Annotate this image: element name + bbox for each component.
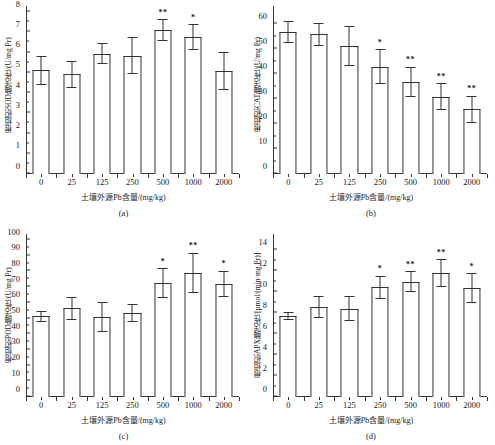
error-bar [162,268,163,298]
bar [63,74,80,174]
y-tick-label: 60 [259,12,268,21]
y-minor-tick-mark [26,81,29,82]
x-tick-label: 500 [148,401,178,413]
error-bar [288,21,289,43]
error-bar-cap-top [67,61,77,62]
error-bar [318,23,319,45]
y-tick-label: 4 [263,342,267,351]
error-bar-cap-top [188,253,198,254]
x-tick-label: 250 [117,178,147,190]
error-bar-cap-top [127,304,137,305]
significance-marker: ** [467,85,476,93]
y-tick-label: 6 [263,321,267,330]
error-bar [132,304,133,321]
error-bar [318,296,319,318]
y-tick-label: 80 [12,259,21,268]
y-tick-label: 40 [12,321,21,330]
error-bar [102,43,103,64]
bar [371,287,388,397]
y-tick-label: 0 [16,161,20,170]
x-tick-label: 2000 [456,401,487,413]
y-tick-label: 0 [16,384,20,393]
x-tick-label: 125 [334,401,365,413]
error-bar [41,56,42,84]
y-tick-label: 2 [263,363,267,372]
y-minor-tick-mark [273,385,276,386]
bar-group: * [456,240,487,397]
y-tick-mark [26,286,30,287]
x-tick-label: 1000 [178,178,208,190]
bar-series: *** [26,12,239,174]
bar-group: ** [426,240,457,397]
y-tick-label: 8 [263,301,267,310]
y-tick-mark [26,132,30,133]
x-tick-label: 1000 [426,401,457,413]
y-tick-mark [273,23,277,24]
bar-series: **** [26,240,239,397]
bar [341,309,358,397]
bar [33,70,50,174]
error-bar [471,273,472,303]
y-tick-label: 100 [7,227,20,236]
x-tick-label: 250 [365,401,396,413]
error-bar [410,271,411,292]
y-tick-mark [26,11,30,12]
significance-marker: * [470,263,475,271]
y-minor-tick-mark [26,372,29,373]
error-bar-cap-top [219,271,229,272]
bar-group: * [365,240,396,397]
y-minor-tick-mark [26,61,29,62]
y-tick-mark [273,249,277,250]
x-tick-marks [273,393,487,397]
error-bar-cap-top [36,311,46,312]
bar [185,37,202,174]
panel-label: (c) [0,432,247,441]
bar-group [304,240,335,397]
error-bar-cap-top [283,312,293,313]
error-bar-cap-top [314,296,324,297]
error-bar-cap-bottom [283,42,293,43]
bar [94,54,111,174]
y-tick-label: 4 [16,80,20,89]
error-bar [441,259,442,286]
bar [33,316,50,397]
error-bar-cap-top [467,273,477,274]
bar [310,34,327,174]
plot-area: 0102030405060708090100 **** [26,240,239,397]
bar-group [117,240,147,397]
y-tick-mark [273,148,277,149]
error-bar-cap-bottom [127,321,137,322]
significance-marker: * [378,265,383,273]
y-minor-tick-mark [273,160,276,161]
y-minor-tick-mark [273,301,276,302]
error-bar-cap-bottom [36,321,46,322]
x-tick-label: 25 [304,178,335,190]
error-bar-cap-bottom [67,87,77,88]
x-tick-labels: 02512525050010002000 [273,178,487,190]
y-tick-label: 30 [12,337,21,346]
error-bar-cap-bottom [375,83,385,84]
error-bar-cap-bottom [127,73,137,74]
error-bar [288,312,289,320]
figure-four-panel-bar-charts: 根组织SOD酶活性/(U/mg Pr) 012345678 *** 025125… [0,0,495,445]
bar [280,316,297,397]
error-bar-cap-bottom [467,302,477,303]
x-axis-title: 土壤外源Pb含量/(mg/kg) [247,417,495,425]
error-bar [380,276,381,299]
significance-marker: ** [406,261,415,269]
y-minor-tick-mark [273,135,276,136]
y-tick-mark [273,173,277,174]
error-bar-cap-top [158,19,168,20]
y-tick-mark [273,123,277,124]
bar-group [209,12,239,174]
error-bar [441,83,442,110]
bar-group: * [209,240,239,397]
error-bar-cap-top [406,67,416,68]
y-tick-mark [273,48,277,49]
significance-marker: ** [437,249,446,257]
bar-group: ** [178,240,208,397]
bar [402,282,419,397]
x-tick-label: 500 [395,401,426,413]
error-bar-cap-top [127,37,137,38]
bar-group: ** [426,12,457,174]
